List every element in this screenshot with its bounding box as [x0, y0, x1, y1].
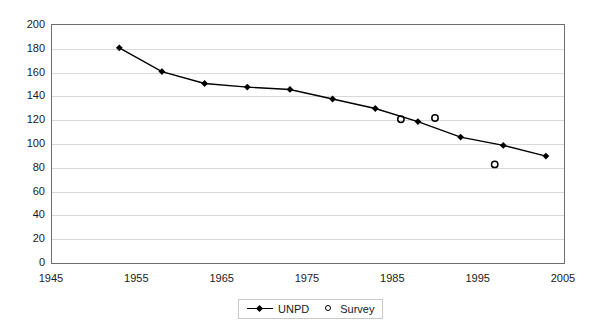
x-axis: 1945195519651975198519952005: [0, 0, 602, 327]
x-axis-tick-label: 2005: [533, 273, 593, 284]
open-circle-marker-icon: [323, 304, 335, 314]
line-chart: 020406080100120140160180200 194519551965…: [0, 0, 602, 327]
legend-label: UNPD: [278, 304, 309, 315]
x-axis-tick-label: 1975: [277, 273, 337, 284]
x-axis-tick-label: 1965: [192, 273, 252, 284]
line-marker-icon: [247, 304, 273, 314]
x-axis-tick-label: 1945: [21, 273, 81, 284]
chart-legend: UNPD Survey: [238, 299, 383, 319]
legend-item-unpd: UNPD: [247, 304, 309, 315]
x-axis-tick-label: 1985: [362, 273, 422, 284]
x-axis-tick-label: 1955: [106, 273, 166, 284]
legend-item-survey: Survey: [323, 304, 374, 315]
legend-label: Survey: [340, 304, 374, 315]
x-axis-tick-label: 1995: [448, 273, 508, 284]
